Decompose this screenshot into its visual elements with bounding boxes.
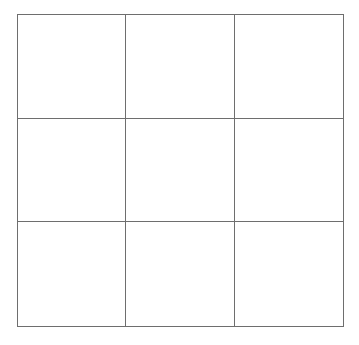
board-cell-r0c1[interactable] <box>126 15 234 119</box>
game-stage <box>0 0 359 345</box>
board-cell-r1c0[interactable] <box>18 119 126 223</box>
board-cell-r0c0[interactable] <box>18 15 126 119</box>
board-cell-r1c1[interactable] <box>126 119 234 223</box>
board-cell-r2c2[interactable] <box>235 222 343 326</box>
board-cell-r0c2[interactable] <box>235 15 343 119</box>
board-cell-r2c1[interactable] <box>126 222 234 326</box>
board-cell-r2c0[interactable] <box>18 222 126 326</box>
tic-tac-toe-board <box>17 14 344 327</box>
board-cell-r1c2[interactable] <box>235 119 343 223</box>
